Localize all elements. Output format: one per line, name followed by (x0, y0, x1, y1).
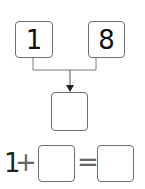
top-left-value: 1 (26, 27, 43, 53)
top-left-number-box: 1 (15, 21, 53, 58)
top-right-value: 8 (98, 27, 115, 53)
arrow-down-icon (66, 85, 74, 92)
sum-answer-box[interactable] (97, 145, 134, 182)
addend2-answer-box[interactable] (38, 145, 75, 182)
plus-operator: + (15, 149, 37, 175)
top-right-number-box: 8 (88, 21, 125, 58)
result-answer-box[interactable] (51, 92, 88, 131)
equals-sign: = (77, 149, 99, 175)
